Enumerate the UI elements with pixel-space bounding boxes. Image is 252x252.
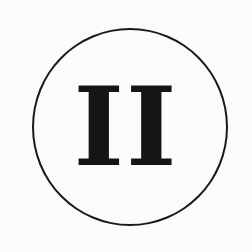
roman-numeral-two: II [0, 0, 252, 252]
